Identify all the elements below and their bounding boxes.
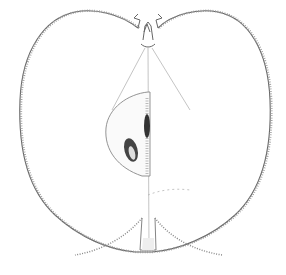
apple-cross-section-illustration: Botanical line drawing of an apple, long… [0, 0, 286, 275]
calyx-tube [75, 218, 222, 255]
core-chamber [106, 92, 150, 176]
seed-right [144, 114, 150, 138]
stem [134, 14, 162, 47]
